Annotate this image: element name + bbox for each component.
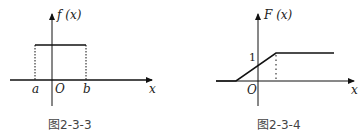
figure-caption: 图2-3-4: [257, 118, 301, 132]
figure-cdf: F (x) 1 O x 图2-3-4: [216, 8, 358, 132]
b-label: b: [83, 82, 91, 96]
x-axis-label: x: [149, 82, 156, 96]
figure-caption: 图2-3-3: [48, 118, 92, 132]
one-label: 1: [249, 51, 256, 64]
origin-label: O: [247, 83, 257, 97]
figure-density: f (x) a O b x 图2-3-3: [10, 8, 156, 132]
a-label: a: [32, 82, 39, 96]
x-axis-label: x: [351, 83, 358, 97]
cdf-curve: [216, 53, 334, 81]
y-axis-label: F (x): [263, 8, 293, 22]
origin-label: O: [55, 82, 65, 96]
y-axis-label: f (x): [56, 8, 82, 22]
diagram-canvas: f (x) a O b x 图2-3-3 F (x) 1 O x 图2-3-4: [0, 0, 362, 136]
